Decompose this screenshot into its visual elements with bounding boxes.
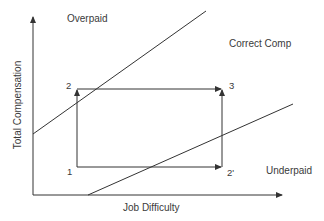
compensation-diagram <box>0 0 324 221</box>
point-1-label: 1 <box>67 167 72 177</box>
underpaid-label: Underpaid <box>266 166 312 176</box>
point-3-label: 3 <box>229 81 234 91</box>
overpaid-label: Overpaid <box>67 14 108 24</box>
x-axis-label: Job Difficulty <box>123 203 180 213</box>
underpaid-boundary-line <box>88 104 293 195</box>
y-axis-label: Total Compensation <box>12 61 23 149</box>
correct-comp-label: Correct Comp <box>229 39 291 49</box>
overpaid-boundary-line <box>33 11 206 134</box>
point-2-label: 2 <box>66 81 71 91</box>
point-2prime-label: 2' <box>227 168 234 178</box>
